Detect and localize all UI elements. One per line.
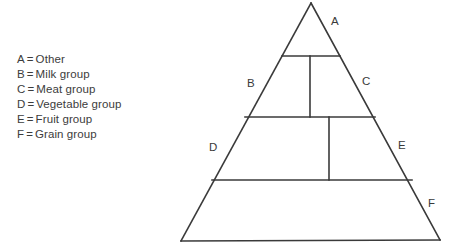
legend-separator-e: = [25,113,36,125]
legend-label-e: Fruit group [36,113,93,125]
diagram-canvas: A=Other B=Milk group C=Meat group D=Vege… [0,0,462,250]
legend-label-d: Vegetable group [36,98,121,110]
legend-separator-d: = [25,98,36,110]
pyramid-body [181,3,440,241]
legend-key-e: E [17,113,25,125]
legend-key-a: A [17,53,25,65]
legend-label-c: Meat group [36,83,95,95]
legend-label-a: Other [36,53,65,65]
legend-separator-f: = [24,128,35,140]
legend-item-b: B=Milk group [17,67,167,82]
legend-item-d: D=Vegetable group [17,97,167,112]
legend-separator-a: = [25,53,36,65]
legend-item-c: C=Meat group [17,82,167,97]
legend: A=Other B=Milk group C=Meat group D=Vege… [17,52,167,142]
legend-label-f: Grain group [35,128,97,140]
pyramid-base-edge [181,240,440,241]
legend-separator-c: = [25,83,36,95]
pyramid-label-e: E [398,139,406,151]
legend-separator-b: = [25,68,36,80]
pyramid-label-c: C [362,75,370,87]
pyramid-label-d: D [209,141,217,153]
legend-label-b: Milk group [36,68,90,80]
pyramid-label-b: B [247,77,255,89]
legend-key-b: B [17,68,25,80]
pyramid-label-a: A [331,15,339,27]
pyramid-label-f: F [428,197,435,209]
legend-item-a: A=Other [17,52,167,67]
legend-item-f: F=Grain group [17,127,167,142]
legend-item-e: E=Fruit group [17,112,167,127]
